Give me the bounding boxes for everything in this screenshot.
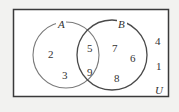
venn-diagram: A B 2 3 5 9 7 6 8 4 1 U bbox=[0, 0, 179, 112]
element-intersection: 9 bbox=[87, 66, 93, 78]
element-outside: 4 bbox=[155, 35, 161, 47]
element-outside: 1 bbox=[156, 60, 162, 72]
element-a-only: 3 bbox=[62, 69, 68, 81]
element-b-only: 6 bbox=[130, 52, 136, 64]
element-b-only: 8 bbox=[114, 72, 120, 84]
set-a-label: A bbox=[57, 18, 65, 30]
element-b-only: 7 bbox=[112, 42, 118, 54]
element-intersection: 5 bbox=[87, 42, 93, 54]
set-b-label: B bbox=[118, 18, 125, 30]
element-a-only: 2 bbox=[48, 48, 54, 60]
universe-label: U bbox=[155, 84, 164, 96]
